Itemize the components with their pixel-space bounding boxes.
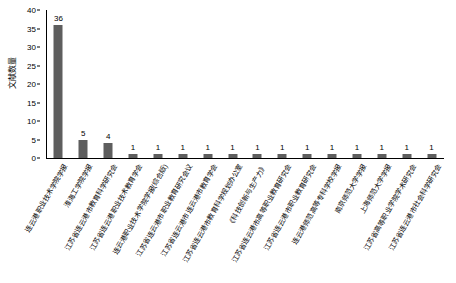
bar[interactable] [203, 154, 212, 158]
y-tick-label: 0 [32, 154, 36, 163]
y-tick-label: 35 [27, 24, 36, 33]
x-category-label-text: 连云港职业技术学院学报 [23, 162, 70, 234]
y-tick-mark [37, 10, 40, 11]
y-tick-label: 40 [27, 6, 36, 15]
bar[interactable] [303, 154, 312, 158]
y-tick-label: 20 [27, 80, 36, 89]
y-tick-mark [37, 84, 40, 85]
bar-value-label: 36 [54, 14, 63, 23]
bar-slot: 36 [46, 10, 71, 158]
bar[interactable] [129, 154, 138, 158]
bar[interactable] [54, 25, 63, 158]
y-tick-label: 5 [32, 135, 36, 144]
y-axis-ticks: 0510152025303540 [0, 10, 40, 158]
bar-chart: 文献数量 0510152025303540 36541111111111111 … [0, 0, 456, 283]
bar[interactable] [178, 154, 187, 158]
bar[interactable] [253, 154, 262, 158]
y-tick-label: 25 [27, 61, 36, 70]
bar[interactable] [328, 154, 337, 158]
bar[interactable] [153, 154, 162, 158]
y-tick-mark [37, 158, 40, 159]
bar[interactable] [228, 154, 237, 158]
y-tick-mark [37, 121, 40, 122]
y-tick-mark [37, 139, 40, 140]
bar[interactable] [427, 154, 436, 158]
y-tick-mark [37, 65, 40, 66]
bar[interactable] [278, 154, 287, 158]
y-tick-label: 10 [27, 117, 36, 126]
y-tick-mark [37, 102, 40, 103]
bar[interactable] [402, 154, 411, 158]
y-tick-label: 30 [27, 43, 36, 52]
y-tick-mark [37, 47, 40, 48]
bar[interactable] [352, 154, 361, 158]
y-tick-label: 15 [27, 98, 36, 107]
y-tick-mark [37, 28, 40, 29]
bar[interactable] [377, 154, 386, 158]
